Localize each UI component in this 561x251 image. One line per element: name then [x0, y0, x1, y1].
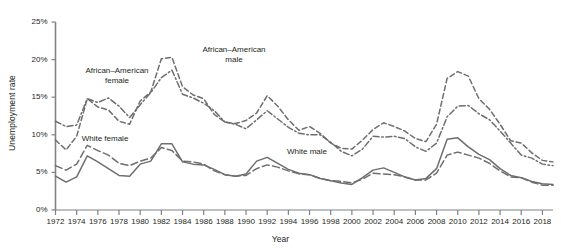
y-tick-label: 0%	[18, 205, 48, 214]
chart-plot-area	[0, 0, 561, 251]
y-tick-label: 15%	[18, 92, 48, 101]
series-line-white-male	[56, 138, 554, 185]
y-tick-label: 20%	[18, 55, 48, 64]
series-label-african-american-male: African–American male	[183, 45, 285, 65]
series-label-african-american-female: African–American female	[66, 66, 168, 86]
y-tick-label: 25%	[18, 17, 48, 26]
unemployment-rate-line-chart: Unemployment rate Year 0%5%10%15%20%25% …	[0, 0, 561, 251]
x-axis-title: Year	[0, 234, 561, 244]
y-tick-label: 10%	[18, 130, 48, 139]
series-label-white-female: White female	[62, 134, 148, 144]
x-tick-label: 2018	[527, 217, 557, 226]
y-axis-title: Unemployment rate	[7, 53, 17, 173]
series-label-white-male: White male	[272, 147, 342, 157]
y-tick-label: 5%	[18, 167, 48, 176]
